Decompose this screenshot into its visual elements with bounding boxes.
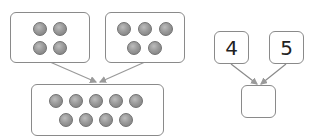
counter-dot (59, 113, 73, 127)
counter-dot (33, 22, 47, 36)
group-a-box (10, 12, 90, 63)
group-b-box (105, 12, 185, 63)
addend-right-value: 5 (270, 32, 303, 63)
counter-dot (119, 113, 133, 127)
counter-dot (53, 41, 67, 55)
counter-dot (33, 41, 47, 55)
counter-dot (159, 22, 173, 36)
addend-left-box: 4 (214, 31, 249, 64)
total-box (31, 84, 164, 136)
counter-dot (127, 41, 141, 55)
counter-dot (109, 94, 123, 108)
counter-dot (69, 94, 83, 108)
counter-dot (79, 113, 93, 127)
counter-dot (99, 113, 113, 127)
addend-left-value: 4 (215, 32, 248, 63)
counter-dot (53, 22, 67, 36)
counter-dot (138, 22, 152, 36)
counter-dot (129, 94, 143, 108)
sum-answer-value (242, 86, 275, 117)
counter-dot (49, 94, 63, 108)
sum-answer-box[interactable] (241, 85, 276, 118)
addend-right-box: 5 (269, 31, 304, 64)
counter-dot (148, 41, 162, 55)
counter-dot (117, 22, 131, 36)
counter-dot (89, 94, 103, 108)
